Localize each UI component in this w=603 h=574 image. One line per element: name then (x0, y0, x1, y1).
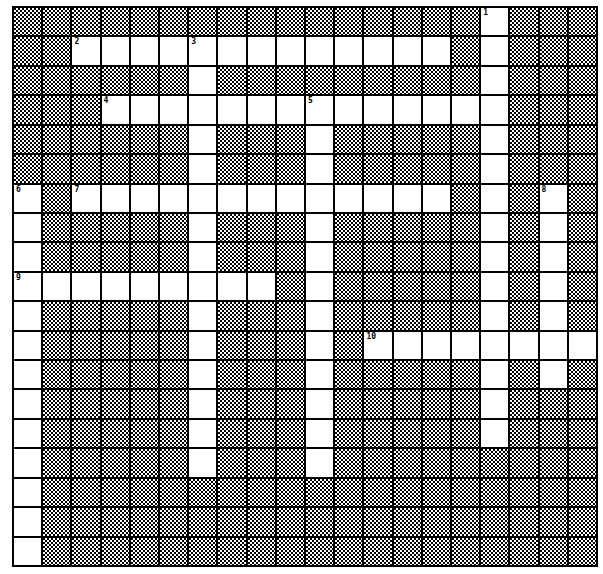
answer-cell[interactable] (481, 390, 508, 417)
answer-cell[interactable] (131, 37, 158, 64)
answer-cell[interactable] (306, 243, 333, 270)
answer-cell[interactable] (248, 37, 275, 64)
answer-cell[interactable] (364, 37, 391, 64)
answer-cell[interactable] (218, 37, 245, 64)
answer-cell[interactable] (306, 390, 333, 417)
answer-cell[interactable] (540, 332, 567, 359)
answer-cell[interactable] (335, 37, 362, 64)
answer-cell[interactable] (364, 185, 391, 212)
answer-cell[interactable] (481, 214, 508, 241)
answer-cell[interactable]: 4 (102, 96, 129, 123)
answer-cell[interactable] (248, 96, 275, 123)
answer-cell[interactable]: 9 (14, 273, 41, 300)
answer-cell[interactable] (189, 390, 216, 417)
answer-cell[interactable] (306, 449, 333, 476)
answer-cell[interactable] (306, 332, 333, 359)
answer-cell[interactable] (102, 185, 129, 212)
answer-cell[interactable] (102, 273, 129, 300)
answer-cell[interactable] (102, 37, 129, 64)
answer-cell[interactable] (14, 479, 41, 506)
answer-cell[interactable] (540, 243, 567, 270)
answer-cell[interactable] (14, 390, 41, 417)
answer-cell[interactable] (277, 96, 304, 123)
answer-cell[interactable] (248, 273, 275, 300)
answer-cell[interactable] (131, 185, 158, 212)
answer-cell[interactable] (43, 273, 70, 300)
answer-cell[interactable] (189, 449, 216, 476)
answer-cell[interactable] (14, 449, 41, 476)
answer-cell[interactable] (189, 273, 216, 300)
answer-cell[interactable]: 3 (189, 37, 216, 64)
answer-cell[interactable] (452, 96, 479, 123)
answer-cell[interactable] (189, 67, 216, 94)
answer-cell[interactable] (72, 273, 99, 300)
answer-cell[interactable] (189, 126, 216, 153)
answer-cell[interactable] (277, 185, 304, 212)
answer-cell[interactable] (394, 37, 421, 64)
answer-cell[interactable] (481, 420, 508, 447)
answer-cell[interactable]: 2 (72, 37, 99, 64)
answer-cell[interactable] (423, 96, 450, 123)
answer-cell[interactable] (14, 361, 41, 388)
answer-cell[interactable] (189, 332, 216, 359)
answer-cell[interactable] (306, 273, 333, 300)
answer-cell[interactable] (306, 126, 333, 153)
answer-cell[interactable] (14, 508, 41, 535)
answer-cell[interactable] (481, 273, 508, 300)
answer-cell[interactable] (540, 214, 567, 241)
answer-cell[interactable] (248, 185, 275, 212)
answer-cell[interactable] (218, 96, 245, 123)
answer-cell[interactable] (423, 185, 450, 212)
answer-cell[interactable] (423, 37, 450, 64)
answer-cell[interactable] (189, 214, 216, 241)
answer-cell[interactable] (218, 185, 245, 212)
answer-cell[interactable] (364, 96, 391, 123)
answer-cell[interactable] (306, 37, 333, 64)
answer-cell[interactable] (14, 243, 41, 270)
answer-cell[interactable] (481, 332, 508, 359)
answer-cell[interactable] (189, 420, 216, 447)
answer-cell[interactable] (394, 185, 421, 212)
answer-cell[interactable] (540, 273, 567, 300)
answer-cell[interactable] (189, 302, 216, 329)
answer-cell[interactable] (14, 538, 41, 565)
answer-cell[interactable] (306, 361, 333, 388)
answer-cell[interactable] (189, 361, 216, 388)
answer-cell[interactable] (394, 332, 421, 359)
answer-cell[interactable] (14, 332, 41, 359)
answer-cell[interactable] (160, 37, 187, 64)
answer-cell[interactable] (189, 243, 216, 270)
answer-cell[interactable] (160, 185, 187, 212)
answer-cell[interactable] (481, 126, 508, 153)
answer-cell[interactable] (189, 155, 216, 182)
answer-cell[interactable] (306, 420, 333, 447)
answer-cell[interactable]: 10 (364, 332, 391, 359)
answer-cell[interactable] (277, 37, 304, 64)
answer-cell[interactable] (569, 332, 596, 359)
answer-cell[interactable] (540, 361, 567, 388)
answer-cell[interactable] (423, 332, 450, 359)
answer-cell[interactable]: 5 (306, 96, 333, 123)
answer-cell[interactable] (481, 37, 508, 64)
answer-cell[interactable] (481, 67, 508, 94)
answer-cell[interactable] (14, 214, 41, 241)
answer-cell[interactable] (306, 155, 333, 182)
answer-cell[interactable] (481, 302, 508, 329)
answer-cell[interactable] (481, 96, 508, 123)
answer-cell[interactable]: 7 (72, 185, 99, 212)
answer-cell[interactable]: 1 (481, 8, 508, 35)
answer-cell[interactable] (189, 96, 216, 123)
answer-cell[interactable] (394, 96, 421, 123)
answer-cell[interactable]: 6 (14, 185, 41, 212)
answer-cell[interactable] (14, 302, 41, 329)
answer-cell[interactable] (306, 185, 333, 212)
answer-cell[interactable] (14, 420, 41, 447)
answer-cell[interactable] (335, 185, 362, 212)
answer-cell[interactable] (481, 155, 508, 182)
answer-cell[interactable]: 8 (540, 185, 567, 212)
answer-cell[interactable] (335, 96, 362, 123)
answer-cell[interactable] (510, 332, 537, 359)
answer-cell[interactable] (481, 243, 508, 270)
answer-cell[interactable] (306, 302, 333, 329)
answer-cell[interactable] (131, 96, 158, 123)
